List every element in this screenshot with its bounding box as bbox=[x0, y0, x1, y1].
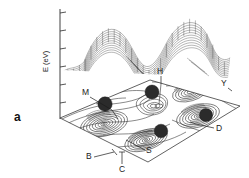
label-m: M bbox=[82, 87, 89, 97]
label-y: Y bbox=[221, 78, 227, 88]
atom-sphere-d bbox=[199, 108, 212, 121]
y-axis-title: E (eV) bbox=[41, 50, 50, 72]
potential-energy-surface-figure: a E (eV) bbox=[0, 0, 249, 178]
label-c: C bbox=[119, 164, 125, 174]
figure-panel: a E (eV) bbox=[0, 0, 249, 178]
label-d: D bbox=[216, 123, 222, 133]
label-b: B bbox=[86, 151, 92, 161]
atom-sphere-s bbox=[154, 124, 168, 138]
label-h: H bbox=[157, 66, 163, 76]
figure-background bbox=[0, 0, 249, 178]
label-s: S bbox=[146, 145, 152, 155]
panel-label: a bbox=[14, 110, 21, 124]
atom-sphere-h bbox=[145, 85, 159, 99]
